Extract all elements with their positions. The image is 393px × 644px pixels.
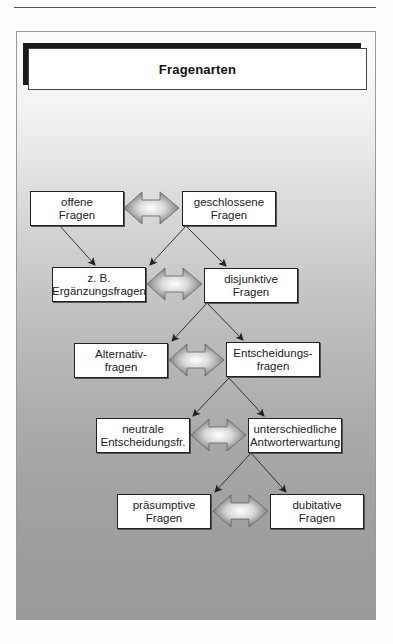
node-disjunktive-fragen: disjunktive Fragen (204, 268, 298, 303)
diagram-panel (16, 31, 376, 620)
node-neutrale-entscheidungsfragen: neutrale Entscheidungsfr. (96, 418, 190, 453)
node-praesumptive-fragen: präsumptive Fragen (117, 494, 211, 529)
node-geschlossene-fragen: geschlossene Fragen (182, 191, 276, 226)
diagram-title: Fragenarten (159, 62, 236, 77)
node-offene-fragen: offene Fragen (30, 191, 124, 226)
node-dubitative-fragen: dubitative Fragen (270, 494, 364, 529)
node-unterschiedliche-antworterwartung: unterschiedliche Antworterwartung (248, 418, 342, 453)
node-entscheidungsfragen: Entscheidungs- fragen (226, 342, 320, 377)
node-alternativfragen: Alternativ- fragen (74, 343, 168, 378)
header-rule (14, 7, 376, 8)
book-page: Fragenarten (0, 0, 393, 644)
node-ergaenzungsfragen: z. B. Ergänzungsfragen (52, 267, 146, 302)
title-box: Fragenarten (28, 48, 367, 90)
